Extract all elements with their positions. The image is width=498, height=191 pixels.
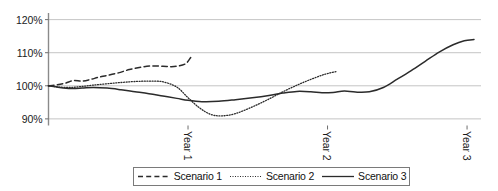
legend-label-scenario-3: Scenario 3: [358, 171, 406, 182]
series-paths: [49, 39, 475, 115]
y-tick-label: 90%: [22, 114, 43, 125]
series-line-2: [49, 72, 336, 116]
legend-item-scenario-3[interactable]: Scenario 3: [321, 171, 406, 182]
y-tick-label: 110%: [17, 48, 43, 59]
gridlines: [49, 20, 482, 119]
y-tick-label: 100%: [16, 81, 42, 92]
chart-plot-area: [0, 0, 498, 191]
legend-swatch-dotted: [229, 172, 263, 181]
legend-swatch-solid: [321, 172, 355, 181]
x-tick-label: Year 2: [322, 131, 333, 160]
x-tick-label: Year 3: [461, 131, 472, 160]
legend-item-scenario-2[interactable]: Scenario 2: [229, 171, 314, 182]
series-line-1: [49, 57, 191, 85]
legend-item-scenario-1[interactable]: Scenario 1: [137, 171, 222, 182]
series-line-3: [49, 39, 475, 101]
line-chart: 90%100%110%120% Year 1Year 2Year 3 Scena…: [0, 0, 498, 191]
x-tick-label: Year 1: [182, 131, 193, 160]
legend-label-scenario-1: Scenario 1: [174, 171, 222, 182]
legend-label-scenario-2: Scenario 2: [266, 171, 314, 182]
chart-legend: Scenario 1 Scenario 2 Scenario 3: [133, 167, 410, 186]
legend-swatch-dashed: [137, 172, 171, 181]
y-tick-label: 120%: [16, 15, 42, 26]
x-axis-ticks: [188, 126, 467, 130]
